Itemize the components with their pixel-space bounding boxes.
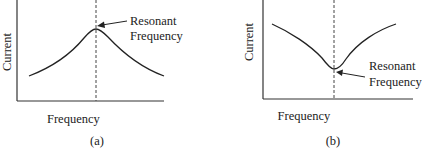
panel-a-annotation-line1: Resonant	[130, 14, 177, 28]
panel-b: Resonant Frequency Current Frequency (b)	[242, 0, 422, 148]
panel-a-xlabel: Frequency	[47, 112, 101, 126]
resonance-figure: Resonant Frequency Current Frequency (a)…	[0, 0, 422, 157]
panel-b-arrow-head-icon	[336, 70, 343, 77]
panel-a-label: (a)	[90, 134, 104, 148]
panel-a: Resonant Frequency Current Frequency (a)	[0, 0, 184, 148]
panel-b-annotation-line2: Frequency	[369, 75, 422, 89]
panel-b-annotation-line1: Resonant	[369, 59, 416, 73]
panel-a-ylabel: Current	[0, 32, 14, 71]
panel-b-ylabel: Current	[242, 22, 256, 61]
panel-b-arrow-line	[342, 73, 365, 77]
panel-a-annotation-line2: Frequency	[130, 29, 184, 43]
panel-a-arrow-line	[102, 21, 127, 25]
panel-a-arrow-head-icon	[97, 22, 105, 29]
panel-b-label: (b)	[326, 134, 341, 148]
panel-b-xlabel: Frequency	[278, 109, 332, 123]
